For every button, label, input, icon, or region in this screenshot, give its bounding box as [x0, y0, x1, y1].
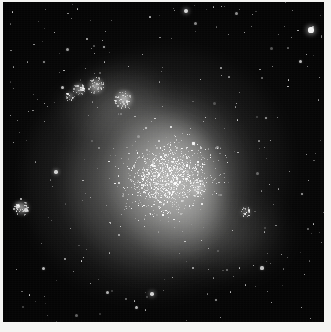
hii-knot-nw-1 [72, 82, 86, 96]
galaxy-bar [94, 97, 243, 272]
hii-knot-se [240, 206, 252, 218]
hii-knot-layer [3, 2, 324, 322]
plate-caption [0, 322, 331, 332]
plate-border-left [0, 0, 3, 332]
plate-border-top [0, 0, 331, 2]
photographic-plate [0, 0, 331, 332]
galaxy-se-extension-glow [176, 191, 294, 285]
hii-knot-nw-4 [65, 91, 75, 101]
plate-border-right [324, 0, 331, 332]
galaxy-nw-arm-glow [53, 54, 174, 153]
sky-field [3, 2, 324, 322]
star-cluster-sw [14, 200, 30, 216]
foreground-starfield [3, 2, 324, 322]
emulsion-grain [3, 2, 324, 322]
galaxy-outer-halo [3, 8, 324, 322]
hii-knot-nw-3 [114, 89, 134, 109]
hii-knot-nw-2 [87, 77, 105, 95]
hii-knot-inner [189, 179, 207, 197]
galaxy-mid-halo [32, 57, 284, 309]
plate-fog [3, 2, 324, 322]
resolved-star-swarm [3, 2, 324, 322]
galaxy-core [135, 123, 229, 240]
